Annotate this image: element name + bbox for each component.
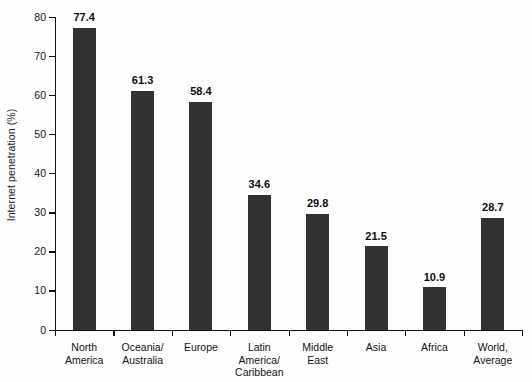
y-tick-mark — [49, 17, 55, 18]
y-tick-label: 80 — [34, 11, 46, 23]
bar — [481, 218, 504, 330]
y-tick-mark — [49, 134, 55, 135]
bar-value-label: 21.5 — [365, 230, 386, 242]
y-axis-title-text: Internet penetration (%) — [5, 109, 17, 222]
x-tick-mark — [230, 330, 231, 336]
x-tick-mark — [113, 330, 114, 336]
x-tick-mark — [289, 330, 290, 336]
bar-value-label: 58.4 — [190, 85, 211, 97]
y-tick-mark — [49, 251, 55, 252]
y-tick-label: 30 — [34, 206, 46, 218]
y-axis-title: Internet penetration (%) — [0, 0, 22, 330]
category-label: Asia — [366, 341, 386, 354]
bar — [189, 102, 212, 330]
bar-value-label: 61.3 — [132, 74, 153, 86]
x-tick-mark — [522, 330, 523, 336]
x-tick-mark — [172, 330, 173, 336]
x-tick-mark — [347, 330, 348, 336]
category-label: Middle East — [302, 341, 333, 366]
bar-chart: Internet penetration (%) 010203040506070… — [0, 0, 532, 382]
y-tick-label: 50 — [34, 128, 46, 140]
bar — [131, 91, 154, 330]
y-tick-label: 70 — [34, 50, 46, 62]
category-label: Europe — [184, 341, 218, 354]
y-tick-label: 60 — [34, 89, 46, 101]
bar — [423, 287, 446, 330]
category-label: World, Average — [473, 341, 512, 366]
y-tick-mark — [49, 95, 55, 96]
y-tick-mark — [49, 56, 55, 57]
x-tick-mark — [405, 330, 406, 336]
category-label: Latin America/ Caribbean — [235, 341, 283, 379]
bar — [248, 195, 271, 330]
y-axis-line — [55, 17, 56, 330]
bar — [73, 28, 96, 330]
bar-value-label: 77.4 — [73, 11, 94, 23]
category-label: Oceania/ Australia — [122, 341, 164, 366]
category-label: North America — [65, 341, 104, 366]
bar — [365, 246, 388, 330]
bar-value-label: 34.6 — [249, 178, 270, 190]
y-tick-mark — [49, 290, 55, 291]
bar — [306, 214, 329, 330]
bar-value-label: 29.8 — [307, 197, 328, 209]
y-tick-label: 0 — [40, 324, 46, 336]
bar-value-label: 10.9 — [424, 271, 445, 283]
bar-value-label: 28.7 — [482, 201, 503, 213]
y-tick-mark — [49, 212, 55, 213]
x-tick-mark — [55, 330, 56, 336]
plot-area: 01020304050607080 77.461.358.434.629.821… — [55, 10, 522, 335]
y-tick-label: 20 — [34, 245, 46, 257]
x-tick-mark — [464, 330, 465, 336]
y-tick-mark — [49, 173, 55, 174]
y-tick-label: 10 — [34, 284, 46, 296]
y-tick-label: 40 — [34, 167, 46, 179]
category-label: Africa — [421, 341, 448, 354]
